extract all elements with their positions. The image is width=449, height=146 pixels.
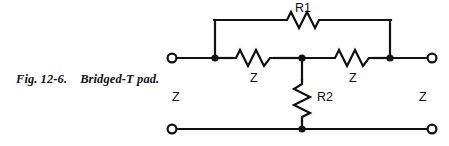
terminal-input-top [168, 54, 177, 63]
label-r2: R2 [317, 91, 333, 104]
junction-node-mid [298, 54, 305, 61]
resistor-r2-symbol [294, 80, 310, 121]
terminal-input-bottom [168, 125, 177, 134]
terminal-output-bottom [428, 125, 437, 134]
junction-node-a [211, 54, 218, 61]
junction-node-ground [298, 125, 305, 132]
figure-page: Fig.12-6.Bridged-T pad. [0, 0, 449, 146]
terminal-output-top [428, 54, 437, 63]
label-z-series-left: Z [250, 72, 258, 85]
resistor-z-left-symbol [232, 50, 274, 66]
resistor-z-right-symbol [331, 50, 373, 66]
label-z-source: Z [172, 91, 180, 104]
junction-node-b [386, 54, 393, 61]
label-z-series-right: Z [349, 72, 357, 85]
label-z-load: Z [419, 91, 427, 104]
bridged-t-circuit-schematic [0, 0, 449, 146]
label-r1: R1 [295, 2, 311, 15]
